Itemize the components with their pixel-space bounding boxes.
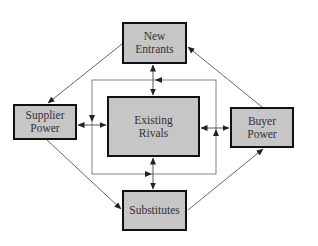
- node-existing-rivals: Existing Rivals: [107, 96, 200, 157]
- five-forces-diagram: New Entrants Supplier Power Existing Riv…: [0, 0, 318, 246]
- ring-arrow-left: [89, 115, 95, 122]
- node-label: Substitutes: [129, 204, 179, 217]
- ring-arrow-top: [155, 77, 162, 83]
- node-substitutes: Substitutes: [122, 190, 187, 231]
- node-label: New Entrants: [135, 30, 173, 56]
- arrow-new-entrants-to-supplier: [48, 44, 122, 103]
- arrow-substitutes-to-buyer: [188, 149, 263, 210]
- ring-arrow-bottom: [145, 171, 152, 177]
- node-supplier-power: Supplier Power: [13, 104, 77, 140]
- node-buyer-power: Buyer Power: [230, 107, 294, 148]
- node-label: Buyer Power: [247, 115, 276, 141]
- node-new-entrants: New Entrants: [122, 22, 187, 64]
- ring-arrow-right: [213, 129, 219, 136]
- node-label: Supplier Power: [26, 109, 65, 135]
- node-label: Existing Rivals: [134, 114, 172, 140]
